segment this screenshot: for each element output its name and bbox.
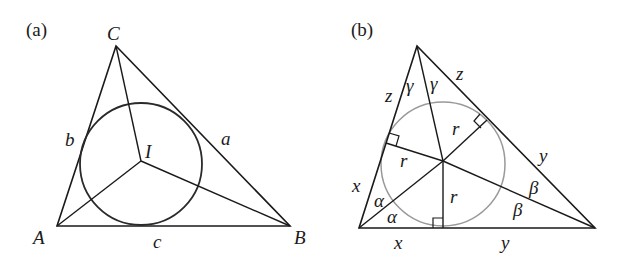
- angle-alpha-upper: α: [374, 190, 385, 211]
- angle-beta-upper: β: [528, 177, 539, 198]
- vertex-b-label: B: [294, 227, 306, 248]
- side-b-label: b: [65, 129, 75, 150]
- tangent-y-bottom: y: [499, 232, 510, 253]
- bisector-alpha: [359, 161, 443, 228]
- angle-alpha-lower: α: [387, 206, 398, 227]
- radius-right: [443, 120, 487, 161]
- panel-b-label: (b): [351, 19, 373, 41]
- radius-label-right: r: [452, 118, 460, 139]
- radius-left: [386, 143, 443, 161]
- angle-beta-lower: β: [512, 199, 523, 220]
- side-a-label: a: [221, 128, 231, 149]
- vertex-c-label: C: [107, 23, 120, 44]
- radius-label-bottom: r: [450, 186, 458, 207]
- angle-gamma-right: γ: [430, 73, 438, 94]
- bisector-b: [141, 161, 290, 226]
- side-c-label: c: [153, 231, 162, 252]
- tangent-z-right: z: [455, 63, 464, 84]
- triangle: [359, 46, 595, 228]
- incenter-label: I: [144, 141, 153, 162]
- vertex-a-label: A: [31, 227, 45, 248]
- tangent-y-right: y: [537, 145, 548, 166]
- angle-gamma-left: γ: [406, 75, 414, 96]
- panel-a: (a) A B C I a b c: [26, 19, 306, 252]
- bisector-gamma: [417, 46, 443, 161]
- tangent-x-left: x: [351, 175, 361, 196]
- bisector-a: [57, 161, 141, 226]
- radius-label-left: r: [400, 150, 408, 171]
- incircle-diagrams: (a) A B C I a b c (b) z z x x y y: [0, 0, 621, 267]
- tangent-x-bottom: x: [393, 232, 403, 253]
- panel-b: (b) z z x x y y r r r α α β β γ γ: [351, 19, 595, 253]
- incircle: [80, 103, 202, 225]
- tangent-z-left: z: [384, 85, 393, 106]
- panel-a-label: (a): [26, 19, 47, 41]
